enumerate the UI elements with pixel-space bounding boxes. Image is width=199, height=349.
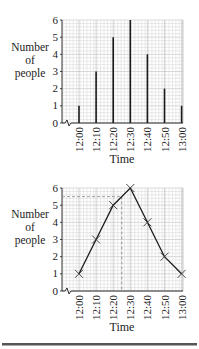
y-tick-label: 4 [53,216,59,228]
x-tick-label: 12:10 [90,127,102,153]
y-axis-label: people [15,67,46,80]
y-tick-label: 2 [53,250,59,262]
y-tick-label: 0 [53,285,59,297]
y-tick-label: 0 [53,117,59,129]
line-chart: 0123456Numberofpeople12:0012:1012:2012:3… [11,182,187,335]
x-tick-label: 12:20 [107,295,119,321]
y-tick-label: 5 [53,199,59,211]
y-tick-label: 1 [53,99,59,111]
x-tick-label: 12:10 [90,295,102,321]
x-tick-label: 12:50 [159,127,171,153]
y-axis-label: of [25,54,35,66]
y-tick-label: 6 [53,182,59,194]
x-tick-label: 12:40 [141,127,153,153]
y-axis-label: people [15,234,46,247]
y-tick-label: 1 [53,267,59,279]
x-axis-label: Time [110,320,135,334]
y-tick-label: 2 [53,82,59,94]
chart-figure: 0123456Numberofpeople12:0012:1012:2012:3… [0,0,199,349]
y-tick-label: 4 [53,48,59,60]
y-tick-label: 3 [53,233,59,245]
x-tick-label: 12:30 [124,127,136,153]
x-tick-label: 12:00 [73,127,85,153]
x-axis-label: Time [110,152,135,166]
y-tick-label: 3 [53,65,59,77]
x-tick-label: 13:00 [176,127,188,153]
x-tick-label: 13:00 [176,295,188,321]
x-tick-label: 12:40 [141,295,153,321]
bar-chart: 0123456Numberofpeople12:0012:1012:2012:3… [11,14,187,167]
bottom-rule [2,343,197,346]
y-tick-label: 5 [53,31,59,43]
x-tick-label: 12:30 [124,295,136,321]
y-axis-label: Number [11,41,49,53]
x-tick-label: 12:20 [107,127,119,153]
x-tick-label: 12:00 [73,295,85,321]
y-tick-label: 6 [53,14,59,26]
y-axis-label: Number [11,208,49,220]
x-tick-label: 12:50 [159,295,171,321]
y-axis-label: of [25,221,35,233]
